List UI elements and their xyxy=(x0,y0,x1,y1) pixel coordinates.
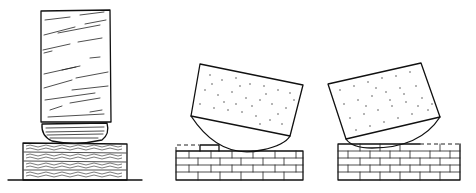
stone-block xyxy=(191,64,303,136)
wood-block xyxy=(23,143,127,180)
timber-column xyxy=(41,10,111,122)
stone-block xyxy=(328,63,440,139)
rounded-cap xyxy=(42,123,108,143)
panel-stone-tilted-right xyxy=(176,64,303,180)
stone-texture xyxy=(199,74,294,124)
illustration: Timber column with rounded cap bearing o… xyxy=(0,0,476,193)
brick-wall xyxy=(338,144,460,180)
brick-wall xyxy=(176,145,303,180)
panel-stone-tilted-left xyxy=(328,63,460,180)
panel-timber-column xyxy=(8,10,142,180)
curved-base xyxy=(191,116,290,152)
